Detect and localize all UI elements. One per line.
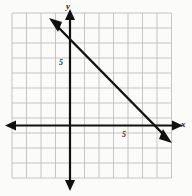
coordinate-plane-svg: y x 5 5	[0, 0, 192, 196]
x-axis-tick-label-5: 5	[122, 130, 126, 139]
plotted-line	[49, 18, 172, 143]
coordinate-plane-figure: y x 5 5	[0, 0, 192, 196]
plotted-line-segment	[56, 25, 165, 136]
x-axis-arrow-left-icon	[5, 121, 16, 131]
x-axis-label: x	[180, 119, 186, 129]
y-axis-tick-label-5: 5	[59, 58, 63, 67]
y-axis-arrow-down-icon	[65, 180, 75, 191]
grid-lines	[12, 13, 172, 178]
